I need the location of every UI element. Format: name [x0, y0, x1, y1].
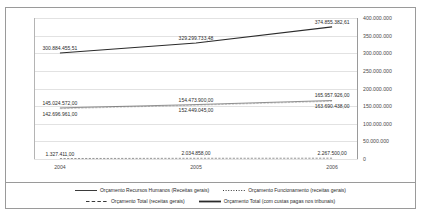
data-point-label: 154.473.900,00 — [179, 97, 214, 103]
legend-swatch — [86, 198, 108, 205]
legend-item[interactable]: Orçamento Recursos Humanos (Receitas ger… — [75, 187, 209, 194]
data-point-label: 2.267.500,00 — [317, 150, 346, 156]
legend-swatch — [199, 198, 221, 205]
data-point-label: 374.855.382,61 — [315, 19, 350, 25]
legend-item-label: Orçamento Recursos Humanos (Receitas ger… — [100, 187, 209, 194]
y-axis-tick-label: 200.000.000 — [363, 86, 392, 92]
legend-item-label: Orçamento Funcionamento (receitas gerais… — [248, 187, 346, 194]
data-point-label: 329.299.733,48 — [179, 35, 214, 41]
y-axis-tick-label: 0 — [363, 156, 366, 162]
y-axis-tick-label: 250.000.000 — [363, 68, 392, 74]
data-point-label: 145.024.572,00 — [43, 100, 78, 106]
legend-item-label: Orçamento Total (receitas gerais) — [111, 198, 185, 205]
y-axis-tick-label: 150.000.000 — [363, 103, 392, 109]
chart-figure: 400.000.000350.000.000300.000.000250.000… — [0, 0, 421, 212]
y-axis-tick-label: 300.000.000 — [363, 50, 392, 56]
legend-swatch — [223, 187, 245, 194]
legend-item[interactable]: Orçamento Funcionamento (receitas gerais… — [223, 187, 346, 194]
clipped-top-text — [0, 0, 421, 7]
data-point-label: 163.690.438,00 — [315, 103, 350, 109]
legend-item[interactable]: Orçamento Total (com custas pagas nos tr… — [199, 198, 335, 205]
chart-legend: Orçamento Recursos Humanos (Receitas ger… — [5, 183, 416, 209]
y-axis-tick-label: 350.000.000 — [363, 33, 392, 39]
data-point-label: 2.034.858,00 — [181, 150, 210, 156]
plot-area: 400.000.000350.000.000300.000.000250.000… — [34, 18, 358, 159]
x-axis-tick-label: 2005 — [190, 164, 202, 170]
legend-row-bottom: Orçamento Total (receitas gerais)Orçamen… — [6, 196, 415, 206]
gridline — [34, 159, 358, 160]
y-axis-tick-label: 100.000.000 — [363, 121, 392, 127]
data-point-label: 142.696.961,00 — [43, 111, 78, 117]
data-point-label: 165.957.926,00 — [315, 92, 350, 98]
legend-item[interactable]: Orçamento Total (receitas gerais) — [86, 198, 185, 205]
legend-row-top: Orçamento Recursos Humanos (Receitas ger… — [6, 185, 415, 195]
data-point-label: 152.449.045,00 — [179, 107, 214, 113]
legend-swatch — [75, 187, 97, 194]
x-axis-tick-label: 2006 — [326, 164, 338, 170]
y-axis-tick-label: 400.000.000 — [363, 15, 392, 21]
legend-item-label: Orçamento Total (com custas pagas nos tr… — [224, 198, 335, 205]
y-axis-tick-label: 50.000.000 — [363, 138, 389, 144]
x-axis-tick-label: 2004 — [54, 164, 66, 170]
data-point-label: 300.884.455,51 — [43, 45, 78, 51]
data-point-label: 1.327.411,00 — [45, 151, 74, 157]
chart-plot-frame: 400.000.000350.000.000300.000.000250.000… — [5, 7, 416, 183]
